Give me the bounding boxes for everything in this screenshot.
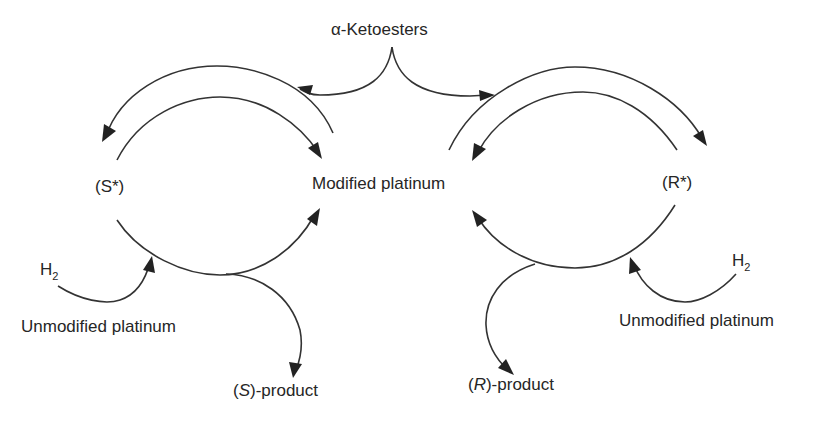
- r-star-label: (R*): [662, 174, 692, 191]
- modified-platinum-label: Modified platinum: [312, 175, 445, 192]
- unmodified-platinum-right-label: Unmodified platinum: [619, 312, 774, 329]
- right-inner-arrowhead: [472, 143, 486, 161]
- right-bottom-arrowhead: [472, 210, 487, 227]
- right-outer-arrowhead: [693, 130, 707, 146]
- h2-right-symbol: H: [732, 251, 744, 270]
- diagram-arrows: [0, 0, 838, 424]
- h2-right-label: H2: [732, 252, 750, 269]
- s-product-label: (S)-product: [233, 382, 318, 399]
- unmodified-platinum-left-label: Unmodified platinum: [21, 318, 176, 335]
- s-product-arrowhead: [289, 362, 302, 378]
- ketoesters-label: α-Ketoesters: [331, 21, 428, 38]
- catalytic-cycle-diagram: α-Ketoesters Modified platinum (S*) (R*)…: [0, 0, 838, 424]
- r-product-label: (R)-product: [468, 376, 554, 393]
- right-h2-arrow: [634, 265, 736, 302]
- right-inner-arc: [478, 92, 677, 152]
- s-product-arrow: [226, 274, 301, 370]
- ketoester-to-left-arrow: [300, 47, 392, 95]
- s-product-text: )-product: [250, 381, 318, 400]
- r-product-arrow: [486, 264, 535, 370]
- r-product-config: R: [474, 375, 486, 394]
- right-h2-arrowhead: [629, 257, 641, 274]
- ketoester-right-arrowhead: [479, 90, 495, 101]
- s-product-config: S: [239, 381, 250, 400]
- r-product-text: )-product: [486, 375, 554, 394]
- left-outer-arc: [106, 66, 333, 136]
- right-bottom-arc: [478, 205, 675, 268]
- left-h2-arrow: [58, 262, 150, 302]
- ketoester-to-right-arrow: [392, 47, 488, 96]
- s-star-label: (S*): [95, 178, 124, 195]
- h2-left-symbol: H: [40, 260, 52, 279]
- h2-right-subscript: 2: [744, 261, 750, 273]
- left-inner-arrowhead: [308, 142, 322, 159]
- left-h2-arrowhead: [143, 256, 155, 273]
- left-inner-arc: [117, 97, 318, 160]
- h2-left-label: H2: [40, 261, 58, 278]
- h2-left-subscript: 2: [52, 270, 58, 282]
